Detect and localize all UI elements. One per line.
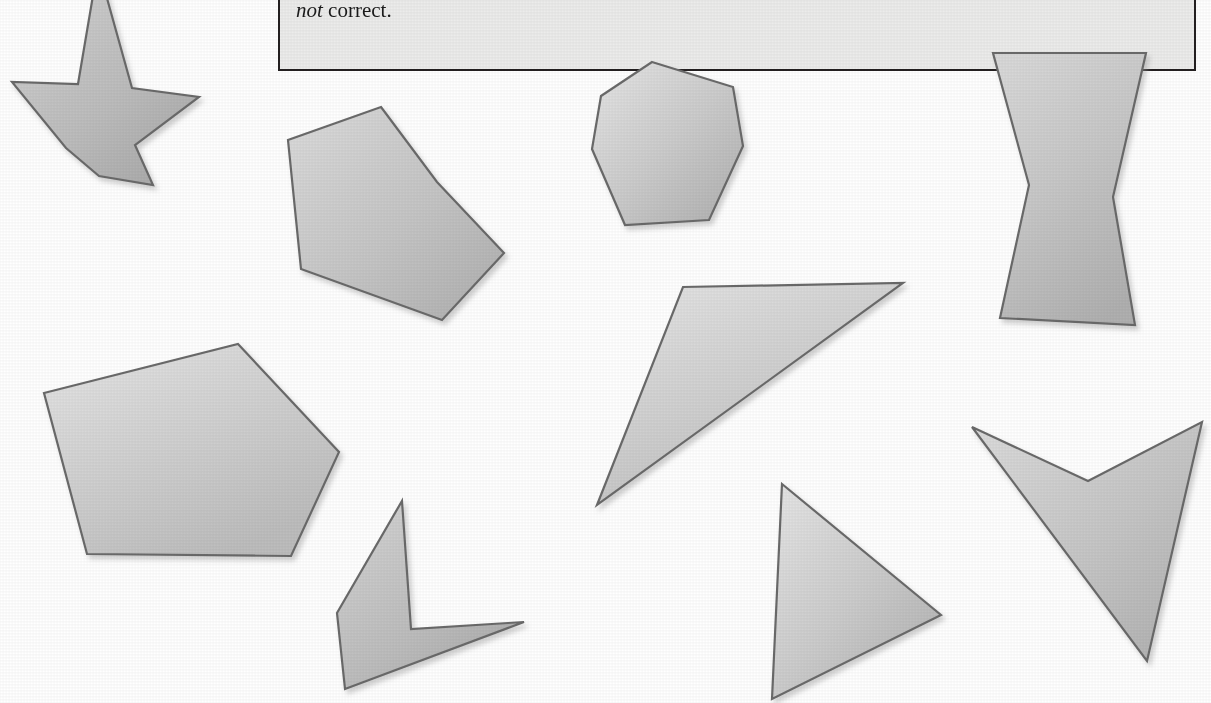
shape-concave-dart [972,422,1202,661]
shape-thin-triangle [597,283,903,505]
shape-triangle [772,484,941,699]
shape-heptagon [592,62,743,225]
shapes-layer [0,0,1211,703]
shape-bowtie-hexagon [993,53,1146,325]
shape-large-quadrilateral [44,344,339,556]
figure-page: in order as you move around the quadrila… [0,0,1211,703]
shape-irregular-heptagon [288,107,504,320]
shape-concave-chevron [337,501,524,689]
shape-four-point-star [12,0,199,185]
